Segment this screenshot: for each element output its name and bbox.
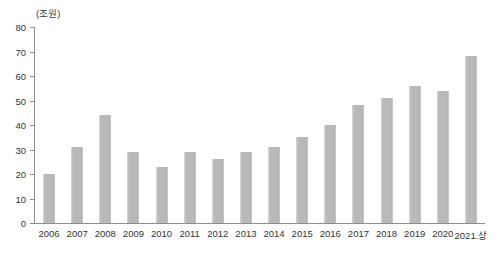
y-axis-tick-label: 50 [0,95,26,106]
bar-slot [344,27,372,223]
bar [72,147,83,223]
x-axis-tick-label: 2010 [151,228,172,239]
x-axis-tick-label: 2013 [235,228,256,239]
bar-slot [457,27,485,223]
bars-container [35,27,485,223]
bar-slot [316,27,344,223]
x-axis-tick-label: 2014 [263,228,284,239]
bar-slot [260,27,288,223]
bar [381,98,392,223]
bar-slot [232,27,260,223]
bar-slot [204,27,232,223]
bar [128,152,139,223]
bar-slot [373,27,401,223]
bar [297,137,308,223]
y-axis-tick-label: 40 [0,120,26,131]
y-axis-tick-label: 20 [0,169,26,180]
x-axis-tick-label: 2007 [67,228,88,239]
x-axis-tick-label: 2012 [207,228,228,239]
bar [184,152,195,223]
bar-slot [401,27,429,223]
x-axis-tick-label: 2009 [123,228,144,239]
x-axis-tick-label: 2015 [292,228,313,239]
x-axis-tick-label: 2008 [95,228,116,239]
x-axis: 2006200720082009201020112012201320142015… [35,228,485,248]
bar-slot [119,27,147,223]
x-axis-tick-label: 2017 [348,228,369,239]
x-axis-tick-label: 2020 [432,228,453,239]
x-axis-tick-label: 2018 [376,228,397,239]
bar [353,105,364,223]
bar-slot [288,27,316,223]
x-axis-line [34,223,485,224]
bar-slot [148,27,176,223]
y-axis-tick-label: 10 [0,193,26,204]
bar-slot [63,27,91,223]
y-axis-unit-label: (조원) [36,6,60,20]
y-axis-tick-label: 60 [0,71,26,82]
bar-chart: (조원) 01020304050607080 20062007200820092… [0,0,500,255]
bar [437,91,448,223]
bar [465,56,476,223]
bar [269,147,280,223]
bar-slot [35,27,63,223]
bar [325,125,336,223]
bar [100,115,111,223]
x-axis-tick-label: 2011 [179,228,199,239]
y-axis-tick-label: 80 [0,22,26,33]
x-axis-tick-label: 2016 [320,228,341,239]
bar [212,159,223,223]
bar-slot [176,27,204,223]
bar [240,152,251,223]
x-axis-tick-label: 2021.상 [455,228,488,242]
x-axis-tick-label: 2019 [404,228,425,239]
bar-slot [429,27,457,223]
bar [156,167,167,223]
y-axis-tick-label: 30 [0,144,26,155]
bar-slot [91,27,119,223]
y-axis-tick [30,223,35,224]
x-axis-tick-label: 2006 [38,228,59,239]
bar [44,174,55,223]
y-axis-tick-label: 70 [0,46,26,57]
bar [409,86,420,223]
y-axis-tick-label: 0 [0,218,26,229]
